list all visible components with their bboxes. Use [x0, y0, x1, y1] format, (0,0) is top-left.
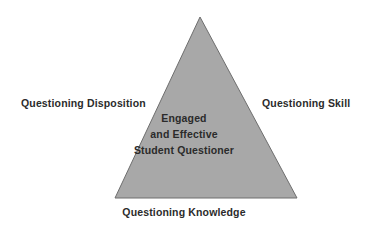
center-caption-line-1: Engaged [0, 110, 368, 126]
label-questioning-knowledge: Questioning Knowledge [0, 207, 368, 218]
triangle-diagram: Questioning Disposition Questioning Skil… [0, 0, 368, 230]
label-questioning-disposition: Questioning Disposition [21, 98, 146, 109]
center-caption: Engaged and Effective Student Questioner [0, 110, 368, 158]
center-caption-line-3: Student Questioner [0, 142, 368, 158]
center-caption-line-2: and Effective [0, 126, 368, 142]
label-questioning-skill: Questioning Skill [262, 98, 350, 109]
